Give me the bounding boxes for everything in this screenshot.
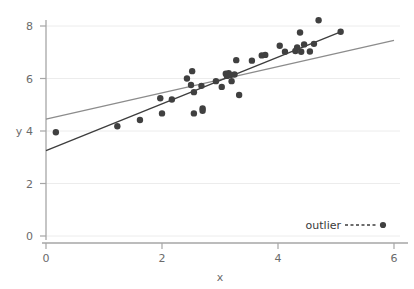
data-point (231, 71, 237, 77)
x-axis-title: x (217, 271, 224, 284)
y-tick-label-6: 6 (26, 73, 33, 86)
data-point (53, 129, 59, 135)
plot-canvas: 0 2 4 6 8 0 2 4 6 y x outlier (0, 0, 414, 289)
x-tick-label-4: 4 (275, 252, 282, 265)
y-tick-label-4: 4 (26, 125, 33, 138)
scatter-chart: 0 2 4 6 8 0 2 4 6 y x outlier (0, 0, 414, 289)
x-tick-label-0: 0 (43, 252, 50, 265)
data-point (169, 96, 175, 102)
data-point (282, 49, 288, 55)
data-point (307, 48, 313, 54)
data-point (315, 17, 321, 23)
y-tick-label-2: 2 (26, 178, 33, 191)
data-point (191, 110, 197, 116)
data-point (114, 123, 120, 129)
data-point (198, 83, 204, 89)
data-point (249, 57, 255, 63)
data-point (188, 82, 194, 88)
y-tick-label-0: 0 (26, 230, 33, 243)
data-point (184, 75, 190, 81)
data-point (311, 41, 317, 47)
data-point (262, 52, 268, 58)
data-point (159, 110, 165, 116)
data-point (191, 89, 197, 95)
data-point (213, 78, 219, 84)
x-tick-label-6: 6 (391, 252, 398, 265)
legend-label-outlier: outlier (306, 219, 342, 232)
data-point (298, 49, 304, 55)
y-tick-label-8: 8 (26, 20, 33, 33)
data-point (219, 84, 225, 90)
data-point (236, 92, 242, 98)
data-point (277, 42, 283, 48)
data-point (189, 68, 195, 74)
data-point (137, 117, 143, 123)
x-tick-label-2: 2 (159, 252, 166, 265)
data-point (337, 29, 343, 35)
data-point (199, 108, 205, 114)
y-axis-title: y (16, 125, 23, 138)
legend-marker-icon (380, 222, 386, 228)
data-point (233, 57, 239, 63)
data-point (157, 95, 163, 101)
data-point (228, 78, 234, 84)
data-point (301, 41, 307, 47)
data-point (297, 29, 303, 35)
